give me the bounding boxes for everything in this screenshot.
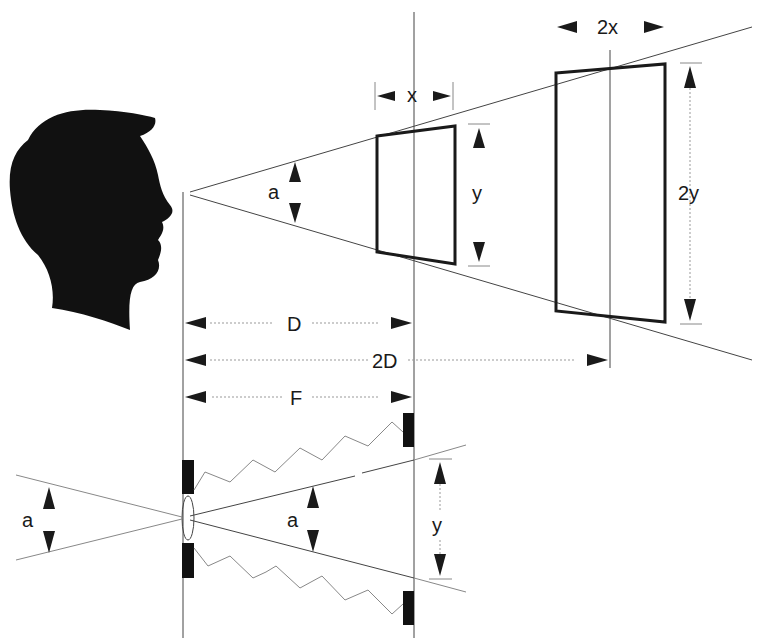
label-a-lens: a — [287, 509, 299, 531]
label-a-left: a — [22, 509, 34, 531]
label-y-bottom: y — [432, 514, 442, 536]
optics-diagram: x 2x y 2y a D 2D — [0, 0, 757, 638]
label-2x: 2x — [597, 16, 618, 38]
lens-board — [182, 460, 194, 578]
left-angle-arrows — [43, 487, 55, 553]
bellows-zigzag — [194, 422, 403, 614]
eye-angle-arrows — [289, 162, 301, 223]
lens — [182, 496, 194, 540]
label-a-eye: a — [268, 181, 280, 203]
label-x: x — [407, 84, 417, 106]
label-F: F — [290, 387, 302, 409]
image-plane-pads — [403, 413, 414, 625]
near-frame — [377, 126, 455, 264]
label-y-near: y — [472, 182, 482, 204]
lens-rays — [16, 445, 466, 592]
label-D: D — [287, 313, 301, 335]
head-silhouette — [10, 110, 173, 330]
label-2y: 2y — [678, 182, 699, 204]
label-2D: 2D — [372, 350, 398, 372]
lens-angle-arrows — [307, 486, 319, 552]
